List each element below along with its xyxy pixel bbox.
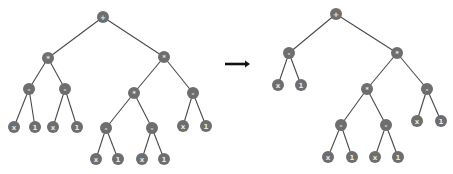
expression-tree-diagram: +**--*-x1x1--x1x1x1+-*x1*---x1x1x1 [0,0,453,174]
node-label: * [395,50,399,58]
tree-edge [397,53,427,89]
tree-edge [14,89,29,127]
node-label: - [151,125,154,133]
node-label: * [162,54,166,62]
tree-node: x [136,153,148,165]
tree-node: x [411,115,423,127]
node-label: - [105,125,108,133]
tree-node: x [90,153,102,165]
node-label: 1 [75,124,80,132]
node-label: x [326,154,331,162]
tree-edge [336,14,397,53]
node-label: 1 [350,154,355,162]
tree-before-edges [14,17,206,159]
tree-edge [367,89,386,125]
tree-node: - [187,87,199,99]
tree-node: - [335,119,347,131]
tree-node: x [369,151,381,163]
node-label: 1 [299,82,304,90]
tree-edge [48,17,103,58]
tree-edge [367,53,397,89]
tree-node: + [330,8,342,20]
tree-node: - [283,47,295,59]
tree-node: 1 [346,151,358,163]
tree-node: * [128,87,140,99]
node-label: x [94,156,99,164]
node-label: - [385,122,388,130]
tree-node: 1 [158,153,170,165]
node-label: x [373,154,378,162]
node-label: 1 [116,156,121,164]
tree-node: x [272,79,284,91]
node-label: 1 [439,118,444,126]
tree-before: +**--*-x1x1--x1x1x1 [8,11,212,165]
tree-node: * [42,52,54,64]
tree-node: * [158,51,170,63]
tree-node: 1 [29,121,41,133]
tree-node: x [177,120,189,132]
tree-after: +-*x1*---x1x1x1 [272,8,447,163]
node-label: 1 [396,154,401,162]
tree-node: - [421,83,433,95]
tree-edge [289,14,336,53]
tree-node: 1 [295,79,307,91]
transform-arrow [225,61,250,68]
node-label: - [288,50,291,58]
arrow-right-icon [245,61,250,68]
tree-edges [14,14,441,159]
tree-edge [164,57,193,93]
tree-edge [103,17,164,57]
tree-node: x [8,121,20,133]
tree-node: * [391,47,403,59]
tree-node: - [380,119,392,131]
node-label: - [340,122,343,130]
node-label: - [426,86,429,94]
node-label: + [333,11,339,19]
tree-node: - [59,83,71,95]
tree-node: - [100,122,112,134]
node-label: x [181,123,186,131]
node-label: - [192,90,195,98]
tree-edge [341,89,367,125]
tree-node: - [146,122,158,134]
node-label: * [46,55,50,63]
tree-node: 1 [71,121,83,133]
tree-node: + [97,11,109,23]
tree-node: 1 [435,115,447,127]
tree-nodes: +**--*-x1x1--x1x1x1+-*x1*---x1x1x1 [8,8,447,165]
node-label: x [415,118,420,126]
node-label: x [51,124,56,132]
node-label: x [140,156,145,164]
tree-edge [106,93,134,128]
tree-node: - [23,83,35,95]
node-label: 1 [204,123,209,131]
node-label: x [12,124,17,132]
tree-node: x [322,151,334,163]
node-label: 1 [162,156,167,164]
tree-edge [134,57,164,93]
tree-node: 1 [392,151,404,163]
node-label: * [132,90,136,98]
node-label: - [64,86,67,94]
node-label: x [276,82,281,90]
node-label: + [100,14,106,22]
tree-node: x [47,121,59,133]
tree-node: 1 [112,153,124,165]
tree-node: 1 [200,120,212,132]
node-label: - [28,86,31,94]
tree-node: * [361,83,373,95]
node-label: 1 [33,124,38,132]
node-label: * [365,86,369,94]
